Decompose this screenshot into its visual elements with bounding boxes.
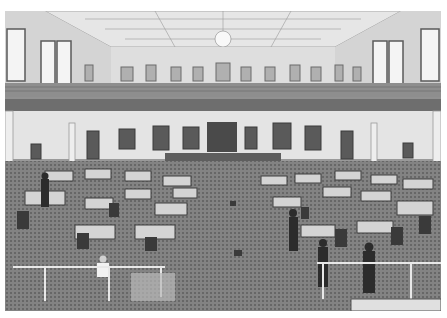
speaker-dais xyxy=(207,122,237,152)
gallery-seating xyxy=(5,83,441,97)
chandelier xyxy=(215,31,231,47)
balcony-rail xyxy=(5,97,441,111)
chamber-illustration xyxy=(5,11,441,311)
chamber-photo xyxy=(5,11,441,311)
